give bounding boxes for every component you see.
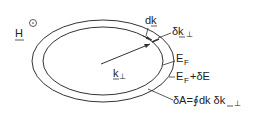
fermi-surface-diagram: H k ⊥ dk δk ⊥ E F E F +δE δA=∮dk δk ⊥ — [0, 0, 254, 118]
field-label: H — [15, 27, 23, 39]
fermi-sub: F — [184, 58, 189, 67]
area-label: δA=∮dk δk — [173, 94, 226, 107]
outer-energy-contour — [32, 20, 174, 102]
fermi-label: E — [176, 52, 183, 64]
k-perp-arrow — [101, 44, 150, 64]
dk-perp-segment — [152, 39, 159, 42]
dkperp-sub: ⊥ — [186, 30, 193, 39]
area-sub: ⊥ — [234, 99, 241, 108]
dot-center — [32, 22, 34, 24]
k-perp-sub: ⊥ — [119, 72, 126, 81]
fermi-plus-label: E — [176, 70, 183, 82]
dk-arrowhead — [146, 36, 152, 40]
area-leader — [148, 89, 173, 100]
fermi-plus-sub: F — [184, 76, 189, 85]
dkperp-leader — [158, 33, 171, 38]
fermi-plus-delta: +δE — [190, 70, 210, 82]
ef-leader — [163, 61, 175, 65]
dk-label: dk — [145, 14, 157, 26]
dkperp-label: δk — [172, 25, 184, 37]
